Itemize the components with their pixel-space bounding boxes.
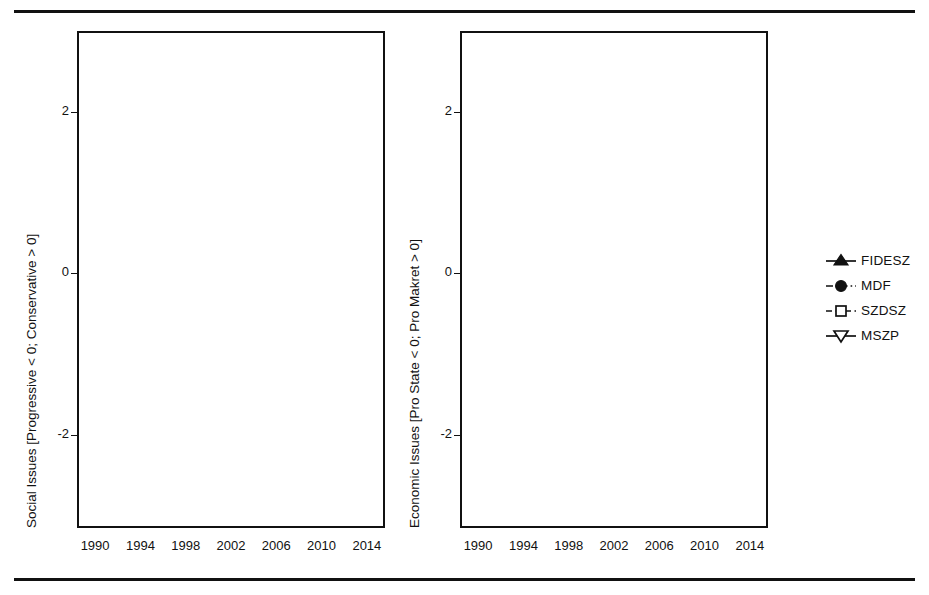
legend-item-szdsz[interactable]: SZDSZ [826,298,926,323]
x-tick-label: 2002 [208,538,254,553]
top-horizontal-rule [14,10,915,13]
bottom-horizontal-rule [14,578,915,581]
left-plot-frame [77,31,385,528]
x-tick-label: 1998 [163,538,209,553]
legend-item-mdf[interactable]: MDF [826,273,926,298]
legend-marker-open-triangle-down-icon [826,326,856,346]
y-tick-label: 2 [43,103,69,118]
y-tick-mark [71,112,77,113]
y-tick-label: 0 [426,264,452,279]
x-tick-label: 1990 [72,538,118,553]
legend-label-fidesz: FIDESZ [861,253,910,268]
legend-item-fidesz[interactable]: FIDESZ [826,248,926,273]
y-tick-mark [71,435,77,436]
y-tick-label: 0 [43,264,69,279]
x-tick-label: 2006 [636,538,682,553]
legend-label-mszp: MSZP [861,328,899,343]
y-tick-mark [454,435,460,436]
left-panel-plot [77,31,385,528]
x-tick-label: 2014 [727,538,773,553]
y-tick-label: -2 [43,426,69,441]
legend-item-mszp[interactable]: MSZP [826,323,926,348]
y-tick-label: 2 [426,103,452,118]
x-tick-label: 2010 [682,538,728,553]
x-tick-label: 2010 [299,538,345,553]
right-plot-frame [460,31,768,528]
y-tick-label: -2 [426,426,452,441]
x-tick-label: 2006 [253,538,299,553]
right-panel-plot [460,31,768,528]
y-tick-mark [454,112,460,113]
legend-marker-filled-circle-icon [826,276,856,296]
legend-marker-open-square-icon [826,301,856,321]
legend-marker-filled-triangle-up-icon [826,251,856,271]
x-tick-label: 2014 [344,538,390,553]
right-panel-y-axis-title: Economic Issues [Pro State < 0; Pro Makr… [407,239,422,528]
x-tick-label: 1994 [500,538,546,553]
x-tick-label: 1990 [455,538,501,553]
y-tick-mark [454,273,460,274]
y-tick-mark [71,273,77,274]
left-panel-y-axis-title: Social Issues [Progressive < 0; Conserva… [24,234,39,528]
legend-label-szdsz: SZDSZ [861,303,906,318]
x-tick-label: 1994 [117,538,163,553]
figure-root: Social Issues [Progressive < 0; Conserva… [0,0,929,595]
x-tick-label: 1998 [546,538,592,553]
legend-label-mdf: MDF [861,278,891,293]
x-tick-label: 2002 [591,538,637,553]
legend: FIDESZ MDF SZDSZ MSZP [826,248,926,348]
